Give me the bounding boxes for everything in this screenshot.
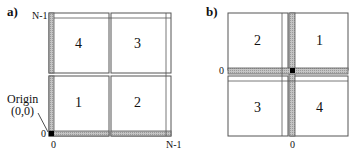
quadrant-3-b: 3: [254, 101, 261, 115]
quadrant-4-b: 4: [316, 101, 323, 115]
quadrant-2-b: 2: [254, 34, 261, 48]
quadrant-3: 3: [134, 37, 141, 51]
axis-label-left-zero-b: 0: [219, 66, 224, 76]
quadrant-1-b: 1: [316, 34, 323, 48]
quadrant-1: 1: [75, 96, 82, 110]
axis-label-bottom-right: N-1: [166, 140, 182, 150]
axis-label-top: N-1: [32, 11, 48, 21]
panel-b-grid: [228, 13, 348, 136]
center-marker: [290, 68, 295, 73]
origin-coords: (0,0): [11, 106, 34, 116]
axis-label-left-zero: 0: [41, 129, 46, 139]
panel-a-label: a): [7, 5, 18, 18]
panel-b-label: b): [206, 5, 218, 18]
origin-marker: [49, 131, 54, 136]
quadrant-2: 2: [134, 96, 141, 110]
axis-label-bottom-zero: 0: [51, 140, 56, 150]
panel-a-grid: [38, 13, 171, 136]
diagram-canvas: [0, 0, 354, 155]
origin-label: Origin: [7, 94, 38, 104]
quadrant-4: 4: [75, 37, 82, 51]
axis-label-bottom-zero-b: 0: [290, 140, 295, 150]
